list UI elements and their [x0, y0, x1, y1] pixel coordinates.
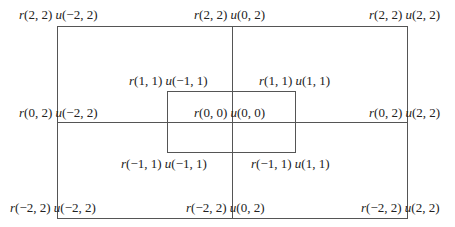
horizontal-axis: [57, 122, 408, 123]
label-inner-bottom-right: r(−1, 1) u(1, 1): [251, 157, 329, 171]
label-outer-middle-right: r(0, 2) u(2, 2): [369, 106, 440, 120]
inner-rect-bottom: [167, 152, 296, 153]
label-outer-top-center: r(2, 2) u(0, 2): [194, 8, 265, 22]
label-outer-bottom-center: r(−2, 2) u(0, 2): [186, 201, 264, 215]
label-outer-top-left: r(2, 2) u(−2, 2): [19, 8, 97, 22]
inner-rect-top: [167, 91, 296, 92]
inner-rect-left: [167, 91, 168, 153]
label-outer-bottom-right: r(−2, 2) u(2, 2): [361, 201, 439, 215]
label-outer-top-right: r(2, 2) u(2, 2): [369, 8, 440, 22]
label-inner-bottom-left: r(−1, 1) u(−1, 1): [121, 157, 207, 171]
label-inner-center: r(0, 0) u(0, 0): [194, 106, 265, 120]
label-inner-top-left: r(1, 1) u(−1, 1): [129, 74, 207, 88]
inner-rect-right: [295, 91, 296, 153]
label-outer-middle-left: r(0, 2) u(−2, 2): [19, 106, 97, 120]
label-inner-top-right: r(1, 1) u(1, 1): [259, 74, 330, 88]
label-outer-bottom-left: r(−2, 2) u(−2, 2): [10, 201, 96, 215]
